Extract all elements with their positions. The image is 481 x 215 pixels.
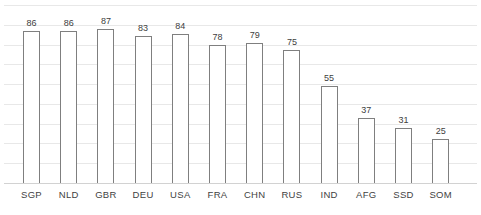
category-label-nld: NLD: [49, 189, 89, 200]
bar-rect[interactable]: [358, 118, 375, 183]
bar-value-label: 55: [312, 73, 346, 84]
bar-rect[interactable]: [60, 31, 77, 183]
bar-rect[interactable]: [432, 139, 449, 183]
bar-rect[interactable]: [283, 50, 300, 183]
bar-rect[interactable]: [209, 45, 226, 183]
bar-fra[interactable]: 78: [209, 0, 226, 183]
bar-rect[interactable]: [135, 36, 152, 183]
bar-sgp[interactable]: 86: [23, 0, 40, 183]
bar-chn[interactable]: 79: [246, 0, 263, 183]
bar-usa[interactable]: 84: [172, 0, 189, 183]
category-label-gbr: GBR: [86, 189, 126, 200]
bar-gbr[interactable]: 87: [97, 0, 114, 183]
bar-afg[interactable]: 37: [358, 0, 375, 183]
bar-value-label: 86: [52, 18, 86, 29]
bar-value-label: 25: [424, 126, 458, 137]
category-label-deu: DEU: [123, 189, 163, 200]
bar-value-label: 31: [387, 115, 421, 126]
bar-value-label: 83: [126, 23, 160, 34]
bar-series: 868687838478797555373125: [0, 0, 481, 183]
bar-value-label: 86: [15, 18, 49, 29]
category-label-afg: AFG: [346, 189, 386, 200]
category-label-som: SOM: [421, 189, 461, 200]
bar-rect[interactable]: [23, 31, 40, 183]
bar-value-label: 79: [238, 30, 272, 41]
bar-rect[interactable]: [321, 86, 338, 183]
plot-area: 868687838478797555373125: [0, 0, 481, 183]
bar-chart: 868687838478797555373125 SGPNLDGBRDEUUSA…: [0, 0, 481, 215]
bar-ind[interactable]: 55: [321, 0, 338, 183]
bar-ssd[interactable]: 31: [395, 0, 412, 183]
bar-value-label: 87: [89, 16, 123, 27]
bar-value-label: 78: [201, 32, 235, 43]
category-label-rus: RUS: [272, 189, 312, 200]
category-label-chn: CHN: [235, 189, 275, 200]
bar-rect[interactable]: [246, 43, 263, 183]
bar-value-label: 75: [275, 37, 309, 48]
bar-value-label: 37: [349, 105, 383, 116]
category-label-ind: IND: [309, 189, 349, 200]
bar-rect[interactable]: [395, 128, 412, 183]
bar-rect[interactable]: [97, 29, 114, 183]
category-axis: SGPNLDGBRDEUUSAFRACHNRUSINDAFGSSDSOM: [0, 183, 481, 215]
category-label-fra: FRA: [198, 189, 238, 200]
category-label-usa: USA: [160, 189, 200, 200]
category-label-ssd: SSD: [384, 189, 424, 200]
category-label-sgp: SGP: [12, 189, 52, 200]
bar-value-label: 84: [163, 21, 197, 32]
bar-som[interactable]: 25: [432, 0, 449, 183]
bar-rus[interactable]: 75: [283, 0, 300, 183]
bar-nld[interactable]: 86: [60, 0, 77, 183]
bar-deu[interactable]: 83: [135, 0, 152, 183]
bar-rect[interactable]: [172, 34, 189, 183]
